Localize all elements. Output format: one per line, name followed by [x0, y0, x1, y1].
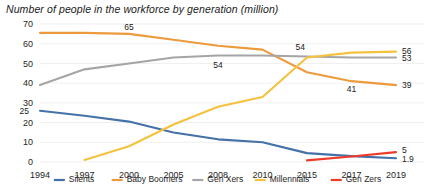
chart-canvas: 0102030405060701994199720002005200820102… [0, 0, 433, 195]
data-label: 5 [402, 145, 407, 155]
y-axis-tick-label: 0 [28, 157, 33, 167]
data-label: 65 [124, 22, 134, 32]
x-axis-tick-label: 1994 [30, 170, 50, 180]
x-axis-tick-label: 2019 [386, 170, 406, 180]
data-label: 1.9 [402, 154, 414, 164]
series-line-silents [40, 111, 396, 159]
data-label: 25 [20, 106, 30, 116]
data-label: 54 [296, 42, 306, 52]
y-axis-tick-label: 40 [23, 78, 33, 88]
data-label: 41 [347, 84, 357, 94]
legend-label-baby-boomers[interactable]: Baby Boomers [127, 174, 183, 184]
legend-label-silents[interactable]: Silents [69, 174, 95, 184]
data-label: 54 [213, 60, 223, 70]
y-axis-tick-label: 50 [23, 59, 33, 69]
y-axis-tick-label: 60 [23, 39, 33, 49]
series-line-millennials [85, 52, 397, 160]
y-axis-tick-label: 10 [23, 137, 33, 147]
legend-label-gen-xers[interactable]: Gen Xers [207, 174, 243, 184]
workforce-generation-chart: Number of people in the workforce by gen… [0, 0, 433, 195]
y-axis-tick-label: 20 [23, 118, 33, 128]
y-axis-tick-label: 70 [23, 19, 33, 29]
data-label: 39 [402, 80, 412, 90]
data-label: 56 [402, 46, 412, 56]
legend-label-millennials[interactable]: Millennials [270, 174, 310, 184]
legend-label-gen-zers[interactable]: Gen Zers [346, 174, 381, 184]
